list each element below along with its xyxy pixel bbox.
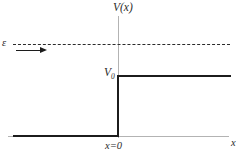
step-height-label-base: V bbox=[104, 66, 111, 78]
potential-step-riser bbox=[117, 76, 119, 137]
arrow-head bbox=[40, 47, 47, 53]
energy-level-label: ε bbox=[2, 38, 6, 49]
step-height-label-subscript: 0 bbox=[111, 72, 115, 81]
step-height-label: V0 bbox=[104, 67, 115, 81]
incident-particle-arrow-icon bbox=[16, 47, 47, 54]
y-axis-label: V(x) bbox=[113, 2, 133, 14]
potential-step-figure: V(x) ε V0 x=0 x bbox=[0, 0, 238, 161]
arrow-shaft bbox=[16, 50, 42, 51]
origin-label: x=0 bbox=[105, 141, 122, 152]
energy-level-dashed-line bbox=[13, 44, 230, 45]
potential-right-segment bbox=[117, 75, 231, 77]
potential-left-segment bbox=[13, 135, 119, 137]
x-axis-label: x bbox=[231, 138, 236, 149]
